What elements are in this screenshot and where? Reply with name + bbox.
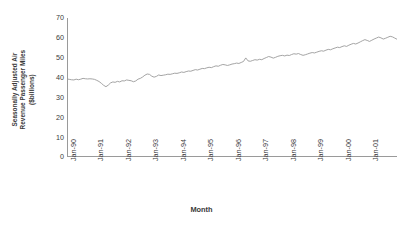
x-tick-label: Jan-00 — [345, 139, 352, 161]
y-tick-label: 40 — [46, 74, 64, 81]
y-tick-label: 50 — [46, 54, 64, 61]
plot-area — [67, 18, 397, 157]
y-tick-label: 10 — [46, 134, 64, 141]
y-tick-label: 70 — [46, 14, 64, 21]
series-svg — [67, 18, 397, 157]
x-tick-label: Jan-91 — [97, 139, 104, 161]
x-tick-label: Jan-94 — [180, 139, 187, 161]
x-tick-label: Jan-97 — [262, 139, 269, 161]
y-axis-title-line-2: Revenue Passenger Miles — [20, 9, 28, 171]
x-axis-title: Month — [0, 205, 403, 214]
x-tick-label: Jan-98 — [290, 139, 297, 161]
x-tick-label: Jan-99 — [317, 139, 324, 161]
y-axis-title-wrapper: Seasonally Adjusted Air Revenue Passenge… — [0, 0, 48, 170]
x-tick-label: Jan-95 — [207, 139, 214, 161]
x-tick-label: Jan-93 — [152, 139, 159, 161]
y-axis-title-line-1: Seasonally Adjusted Air — [11, 53, 18, 127]
y-tick-label: 60 — [46, 34, 64, 41]
y-axis-title-line-3: ($billions) — [28, 9, 36, 171]
x-tick-label: Jan-92 — [125, 139, 132, 161]
y-axis-title: Seasonally Adjusted Air Revenue Passenge… — [11, 9, 36, 171]
x-tick-label: Jan-01 — [372, 139, 379, 161]
y-tick-label: 20 — [46, 114, 64, 121]
y-axis-tick-labels: 706050403020100 — [44, 0, 64, 226]
y-tick-label: 0 — [46, 153, 64, 160]
chart-figure: Seasonally Adjusted Air Revenue Passenge… — [0, 0, 403, 226]
x-tick-label: Jan-90 — [70, 139, 77, 161]
x-tick-label: Jan-96 — [235, 139, 242, 161]
x-axis-tick-labels: Jan-90Jan-91Jan-92Jan-93Jan-94Jan-95Jan-… — [67, 157, 397, 203]
data-line — [67, 36, 397, 86]
y-tick-label: 30 — [46, 94, 64, 101]
